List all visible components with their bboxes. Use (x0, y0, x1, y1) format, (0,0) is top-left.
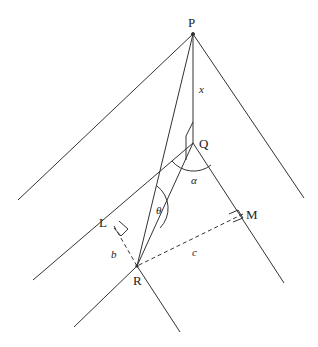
label-alpha: α (191, 174, 197, 186)
point-p (192, 33, 195, 36)
label-x: x (198, 83, 204, 95)
label-c: c (192, 246, 197, 258)
line-r-right (137, 266, 180, 332)
perp-rm (137, 214, 243, 266)
label-r: R (133, 273, 142, 288)
label-b: b (111, 248, 117, 260)
point-r (136, 265, 138, 267)
line-qm (193, 143, 284, 283)
angle-marker-q (186, 122, 193, 160)
line-p-right (193, 34, 304, 198)
line-p-left (18, 34, 193, 200)
label-l: L (99, 215, 107, 230)
line-qr (137, 143, 193, 266)
label-m: M (246, 207, 258, 222)
label-p: P (188, 15, 195, 30)
geometry-diagram: P Q R L M x α θ b c (0, 0, 318, 347)
line-r-left (74, 266, 137, 327)
label-theta: θ (156, 204, 162, 216)
right-angle-l (114, 221, 128, 236)
label-q: Q (199, 136, 209, 151)
